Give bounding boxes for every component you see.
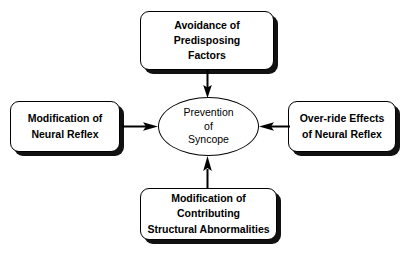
node-modification-of-neural-reflex[interactable]: Modification of Neural Reflex xyxy=(10,101,120,152)
node-left-line-1: Modification of xyxy=(28,111,103,126)
arrow-bottom-to-center-icon xyxy=(203,156,212,188)
arrow-right-to-center-icon xyxy=(259,122,290,131)
node-prevention-of-syncope[interactable]: Prevention of Syncope xyxy=(158,97,259,156)
node-top-line-2: Predisposing xyxy=(174,33,241,48)
arrow-left-to-center-icon xyxy=(122,122,158,131)
node-over-ride-effects-of-neural-reflex[interactable]: Over-ride Effects of Neural Reflex xyxy=(288,101,396,152)
node-avoidance-of-predisposing-factors[interactable]: Avoidance of Predisposing Factors xyxy=(140,11,274,70)
node-top-line-1: Avoidance of xyxy=(174,18,240,33)
node-bottom-line-1: Modification of xyxy=(171,191,246,206)
node-left-line-2: Neural Reflex xyxy=(31,127,98,142)
clipped-header-text xyxy=(205,0,400,3)
node-right-line-1: Over-ride Effects xyxy=(300,111,385,126)
node-right-line-2: of Neural Reflex xyxy=(302,127,382,142)
arrow-top-to-center-icon xyxy=(203,70,212,98)
node-top-line-3: Factors xyxy=(188,48,226,63)
node-bottom-line-3: Structural Abnormalities xyxy=(147,222,269,237)
node-modification-of-contributing-structural-abnormalities[interactable]: Modification of Contributing Structural … xyxy=(140,188,277,240)
node-center-line-1: Prevention xyxy=(183,106,233,120)
diagram-canvas: Avoidance of Predisposing Factors Modifi… xyxy=(0,0,402,258)
node-bottom-line-2: Contributing xyxy=(177,206,240,221)
node-center-line-2: of xyxy=(204,120,213,134)
node-center-line-3: Syncope xyxy=(188,133,229,147)
